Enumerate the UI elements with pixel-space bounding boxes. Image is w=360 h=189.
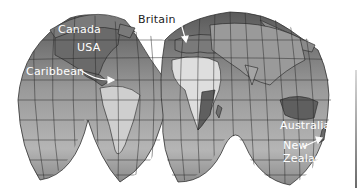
label-australia: Australia xyxy=(280,120,330,131)
page-edge-shadow xyxy=(355,70,357,188)
label-britain: Britain xyxy=(138,14,176,25)
label-new-zealand-line1: New xyxy=(283,140,308,151)
label-caribbean: Caribbean xyxy=(26,66,84,77)
label-usa: USA xyxy=(77,42,100,53)
label-canada: Canada xyxy=(58,24,101,35)
label-new-zealand-line2: Zealand xyxy=(283,153,329,164)
